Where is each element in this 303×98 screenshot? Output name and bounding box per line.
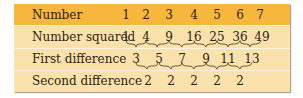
cell: 13 xyxy=(244,52,259,66)
cell: 49 xyxy=(254,30,269,44)
cell: 9 xyxy=(165,30,173,44)
cell: 1 xyxy=(122,8,130,22)
cell: 11 xyxy=(220,52,235,66)
row-label: Number squared xyxy=(32,30,135,44)
cell: 6 xyxy=(236,8,244,22)
row-first-difference: First difference 3 5 7 9 11 13 xyxy=(14,48,290,71)
cell: 2 xyxy=(213,74,221,88)
cell: 2 xyxy=(190,74,198,88)
cell: 3 xyxy=(132,52,140,66)
cell: 9 xyxy=(202,52,210,66)
cell: 2 xyxy=(142,8,150,22)
cell: 4 xyxy=(142,30,150,44)
differences-table: Number 1 2 3 4 5 6 7 Number squared 1 4 … xyxy=(14,4,290,92)
cell: 7 xyxy=(178,52,186,66)
row-label: Number xyxy=(32,8,82,22)
row-number-squared: Number squared 1 4 9 16 25 36 49 xyxy=(14,26,290,49)
row-second-difference: Second difference 2 2 2 2 2 xyxy=(14,70,290,92)
cell: 5 xyxy=(213,8,221,22)
row-label: First difference xyxy=(32,52,126,66)
header-row-number: Number 1 2 3 4 5 6 7 xyxy=(14,4,290,26)
cell: 2 xyxy=(144,74,152,88)
cell: 4 xyxy=(190,8,198,22)
cell: 3 xyxy=(165,8,173,22)
cell: 2 xyxy=(236,74,244,88)
cell: 25 xyxy=(209,30,224,44)
cell: 7 xyxy=(256,8,264,22)
cell: 5 xyxy=(155,52,163,66)
cell: 1 xyxy=(122,30,130,44)
cell: 2 xyxy=(167,74,175,88)
row-label: Second difference xyxy=(32,74,142,88)
cell: 36 xyxy=(232,30,247,44)
cell: 16 xyxy=(186,30,201,44)
